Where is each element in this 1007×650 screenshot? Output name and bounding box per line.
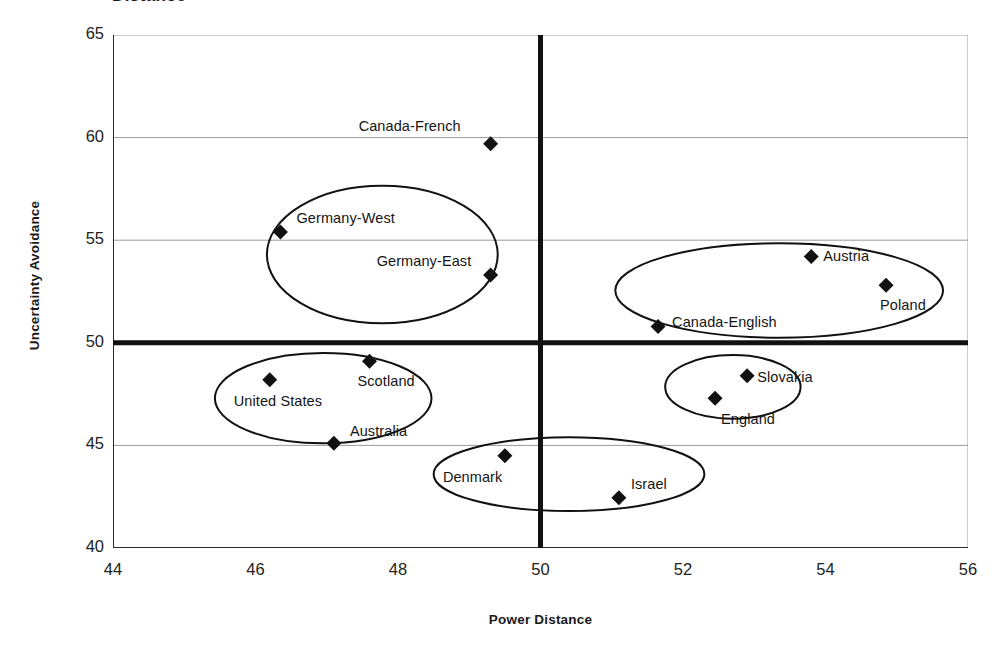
x-tick-54: 54 — [796, 560, 856, 579]
y-tick-55: 55 — [58, 229, 104, 248]
y-tick-65: 65 — [58, 24, 104, 43]
y-tick-40: 40 — [58, 537, 104, 556]
data-point-marker[interactable] — [740, 368, 755, 383]
data-point-label: Denmark — [443, 469, 503, 485]
y-tick-60: 60 — [58, 127, 104, 146]
data-point-label: Austria — [823, 248, 869, 264]
x-tick-56: 56 — [938, 560, 998, 579]
data-point-label: Scotland — [358, 373, 415, 389]
y-tick-45: 45 — [58, 434, 104, 453]
x-tick-46: 46 — [226, 560, 286, 579]
data-point-label: Israel — [631, 476, 667, 492]
data-point-label: Germany-East — [377, 253, 472, 269]
data-point-marker[interactable] — [611, 490, 626, 505]
plot-svg — [113, 35, 968, 548]
data-point-label: United States — [234, 393, 322, 409]
y-axis-title: Uncertainty Avoidance — [27, 186, 42, 366]
data-point-label: Poland — [880, 297, 926, 313]
data-point-label: Slovakia — [757, 369, 813, 385]
data-point-label: Canada-English — [672, 314, 777, 330]
scatter-chart-figure: Distance Uncertainty Avoidance Power Dis… — [0, 0, 1007, 650]
data-point-marker[interactable] — [273, 224, 288, 239]
y-tick-50: 50 — [58, 332, 104, 351]
x-axis-title: Power Distance — [113, 612, 968, 627]
data-point-marker[interactable] — [879, 278, 894, 293]
cluster-ellipse-austria-poland-cluster — [615, 243, 943, 337]
plot-area: Canada-FrenchGermany-WestGermany-EastAus… — [113, 35, 968, 548]
data-point-label: Germany-West — [296, 210, 394, 226]
x-tick-44: 44 — [83, 560, 143, 579]
x-tick-50: 50 — [511, 560, 571, 579]
data-point-marker[interactable] — [483, 136, 498, 151]
data-point-label: Australia — [350, 423, 407, 439]
data-point-marker[interactable] — [326, 436, 341, 451]
data-point-marker[interactable] — [497, 448, 512, 463]
x-tick-52: 52 — [653, 560, 713, 579]
chart-title: Distance — [112, 0, 186, 6]
cluster-ellipse-slovakia-england-cluster — [665, 355, 800, 419]
data-point-marker[interactable] — [804, 249, 819, 264]
x-tick-48: 48 — [368, 560, 428, 579]
data-point-marker[interactable] — [708, 391, 723, 406]
data-point-label: England — [721, 411, 775, 427]
data-point-label: Canada-French — [359, 118, 461, 134]
data-point-marker[interactable] — [262, 372, 277, 387]
